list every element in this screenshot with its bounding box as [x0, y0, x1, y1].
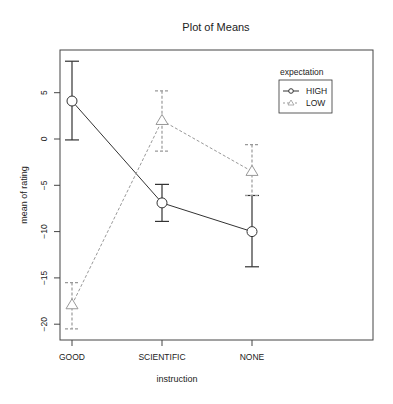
chart-title: Plot of Means: [182, 21, 250, 33]
series-layer: [65, 61, 259, 329]
legend-box: [279, 80, 332, 113]
legend-title: expectation: [280, 67, 324, 77]
y-axis-label: mean of rating: [19, 166, 29, 224]
x-axis: GOODSCIENTIFICNONE: [59, 340, 265, 362]
y-axis: 50−5−10−15−20: [39, 90, 60, 331]
circle-marker-icon: [289, 89, 294, 94]
legend: expectation HIGHLOW: [279, 67, 332, 113]
x-tick-label: GOOD: [59, 352, 85, 362]
y-tick-label: −20: [39, 317, 49, 332]
legend-label: LOW: [306, 98, 325, 108]
triangle-marker-icon: [66, 299, 78, 309]
x-tick-label: NONE: [240, 352, 265, 362]
circle-marker-icon: [247, 227, 257, 237]
y-tick-label: −10: [39, 224, 49, 239]
x-tick-label: SCIENTIFIC: [138, 352, 185, 362]
y-tick-label: −15: [39, 270, 49, 285]
circle-marker-icon: [157, 198, 167, 208]
y-tick-label: 0: [39, 136, 49, 141]
x-axis-label: instruction: [156, 374, 197, 384]
y-tick-label: 5: [39, 90, 49, 95]
triangle-marker-icon: [246, 165, 258, 175]
circle-marker-icon: [67, 96, 77, 106]
y-tick-label: −5: [39, 180, 49, 190]
legend-label: HIGH: [306, 86, 327, 96]
triangle-marker-icon: [156, 114, 168, 124]
plot-of-means-chart: Plot of Means 50−5−10−15−20 GOODSCIENTIF…: [0, 0, 393, 404]
